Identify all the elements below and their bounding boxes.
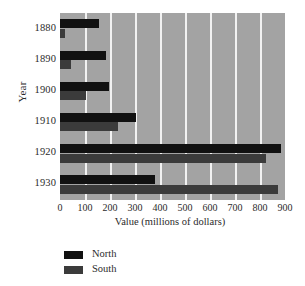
bar-south-1920 bbox=[60, 154, 266, 163]
y-axis-tick-labels: 188018901900191019201930 bbox=[8, 13, 56, 200]
bar-north-1920 bbox=[60, 144, 281, 153]
bar-north-1880 bbox=[60, 19, 99, 28]
x-axis-title: Value (millions of dollars) bbox=[40, 216, 300, 227]
y-tick-1910: 1910 bbox=[10, 115, 56, 126]
legend-swatch-south bbox=[64, 266, 83, 274]
gridline bbox=[260, 13, 262, 200]
x-tick-300: 300 bbox=[128, 202, 143, 213]
gridline bbox=[185, 13, 187, 200]
y-tick-1890: 1890 bbox=[10, 53, 56, 64]
gridline bbox=[110, 13, 112, 200]
bar-south-1910 bbox=[60, 122, 118, 131]
x-tick-800: 800 bbox=[253, 202, 268, 213]
x-tick-600: 600 bbox=[203, 202, 218, 213]
bar-north-1890 bbox=[60, 51, 106, 60]
bar-north-1930 bbox=[60, 175, 155, 184]
x-axis-tick-labels: 0100200300400500600700800900 bbox=[60, 202, 285, 216]
gridline bbox=[210, 13, 212, 200]
gridline bbox=[135, 13, 137, 200]
gridline bbox=[235, 13, 237, 200]
bar-south-1900 bbox=[60, 91, 86, 100]
y-tick-1900: 1900 bbox=[10, 84, 56, 95]
legend-item-south: South bbox=[64, 262, 117, 277]
bar-south-1930 bbox=[60, 185, 278, 194]
gridline bbox=[85, 13, 87, 200]
y-tick-1920: 1920 bbox=[10, 146, 56, 157]
legend-item-north: North bbox=[64, 247, 117, 262]
y-tick-1880: 1880 bbox=[10, 22, 56, 33]
x-tick-0: 0 bbox=[58, 202, 63, 213]
x-tick-400: 400 bbox=[153, 202, 168, 213]
legend-swatch-north bbox=[64, 251, 83, 259]
bar-north-1900 bbox=[60, 82, 109, 91]
x-tick-200: 200 bbox=[103, 202, 118, 213]
chart-legend: NorthSouth bbox=[64, 247, 117, 277]
bar-north-1910 bbox=[60, 113, 136, 122]
legend-label-north: North bbox=[92, 249, 117, 260]
plot-area bbox=[60, 13, 285, 200]
gridline bbox=[160, 13, 162, 200]
x-tick-500: 500 bbox=[178, 202, 193, 213]
x-tick-100: 100 bbox=[78, 202, 93, 213]
bar-chart: Year 188018901900191019201930 0100200300… bbox=[0, 0, 305, 286]
x-tick-900: 900 bbox=[278, 202, 293, 213]
bar-south-1880 bbox=[60, 29, 65, 38]
y-tick-1930: 1930 bbox=[10, 177, 56, 188]
x-tick-700: 700 bbox=[228, 202, 243, 213]
legend-label-south: South bbox=[92, 264, 117, 275]
bar-south-1890 bbox=[60, 60, 71, 69]
